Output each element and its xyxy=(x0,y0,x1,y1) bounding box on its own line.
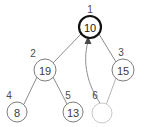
node-1-value: 10 xyxy=(84,22,96,34)
node-2[interactable]: 2 19 xyxy=(30,48,56,82)
edge-1-3 xyxy=(99,34,116,62)
binary-heap-tree-figure: 1 10 2 19 3 15 4 8 5 13 6 xyxy=(0,0,141,127)
node-2-value: 19 xyxy=(39,65,51,77)
node-1-index-label: 1 xyxy=(87,4,93,15)
edge-1-2 xyxy=(53,34,81,63)
edge-2-4 xyxy=(24,77,37,104)
node-5[interactable]: 5 13 xyxy=(63,90,83,123)
tree-canvas: 1 10 2 19 3 15 4 8 5 13 6 xyxy=(0,0,141,127)
node-3[interactable]: 3 15 xyxy=(112,47,134,82)
node-6-circle[interactable] xyxy=(92,103,112,123)
node-5-index-label: 5 xyxy=(65,90,71,101)
node-3-value: 15 xyxy=(117,65,129,77)
edge-3-6 xyxy=(106,78,116,105)
node-4[interactable]: 4 8 xyxy=(6,90,27,123)
node-2-index-label: 2 xyxy=(30,48,36,59)
node-4-value: 8 xyxy=(14,107,20,119)
node-3-index-label: 3 xyxy=(118,47,124,58)
node-6[interactable]: 6 xyxy=(92,90,112,124)
node-6-index-label: 6 xyxy=(92,90,98,101)
node-5-value: 13 xyxy=(67,107,79,119)
node-1[interactable]: 1 10 xyxy=(79,4,101,39)
node-4-index-label: 4 xyxy=(6,90,12,101)
